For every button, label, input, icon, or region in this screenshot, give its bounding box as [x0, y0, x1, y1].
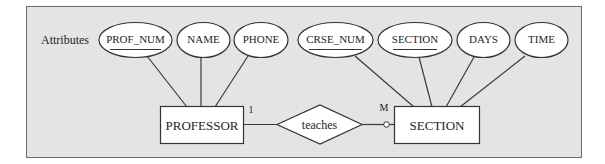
attribute-prof-num: PROF_NUM — [99, 23, 172, 58]
entity-section: SECTION — [395, 107, 480, 144]
svg-text:PHONE: PHONE — [243, 33, 280, 45]
attribute-crse-num: CRSE_NUM — [298, 23, 373, 58]
svg-text:SECTION: SECTION — [410, 118, 466, 133]
er-diagram: Attributes PROF_NUM NAME PHONE CRSE_NUM … — [0, 0, 605, 164]
svg-text:NAME: NAME — [187, 33, 220, 45]
svg-text:CRSE_NUM: CRSE_NUM — [306, 33, 365, 45]
attribute-section: SECTION — [378, 23, 452, 58]
svg-text:SECTION: SECTION — [392, 33, 439, 45]
attribute-name: NAME — [177, 23, 230, 58]
svg-text:PROF_NUM: PROF_NUM — [106, 33, 165, 45]
attributes-label: Attributes — [41, 33, 89, 47]
optional-participation-circle — [384, 122, 390, 128]
svg-text:teaches: teaches — [302, 118, 338, 132]
attribute-phone: PHONE — [234, 23, 288, 58]
svg-text:DAYS: DAYS — [469, 33, 498, 45]
entity-professor: PROFESSOR — [161, 107, 244, 144]
svg-text:TIME: TIME — [528, 33, 555, 45]
attribute-time: TIME — [515, 23, 568, 58]
attribute-days: DAYS — [457, 23, 510, 58]
svg-text:PROFESSOR: PROFESSOR — [166, 118, 239, 133]
cardinality-one-label: 1 — [249, 104, 254, 115]
cardinality-many-label: M — [380, 102, 389, 113]
